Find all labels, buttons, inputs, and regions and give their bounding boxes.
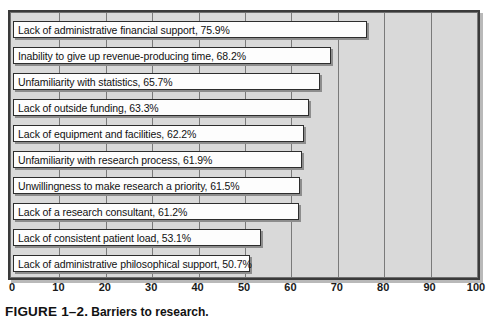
- bar-label: Unfamiliarity with statistics, 65.7%: [18, 76, 173, 87]
- bar-row: Lack of administrative philosophical sup…: [13, 255, 250, 272]
- x-tick-label-10: 10: [52, 282, 64, 293]
- bar: Lack of outside funding, 63.3%: [13, 99, 309, 116]
- bar-label: Unwillingness to make research a priorit…: [18, 180, 239, 191]
- bar-row: Lack of administrative financial support…: [13, 21, 367, 38]
- x-tick-label-90: 90: [423, 282, 435, 293]
- plot-area: Lack of administrative financial support…: [10, 12, 478, 278]
- x-tick-label-80: 80: [377, 282, 389, 293]
- bar-row: Unfamiliarity with statistics, 65.7%: [13, 73, 320, 90]
- x-tick-label-20: 20: [99, 282, 111, 293]
- x-tick-label-40: 40: [191, 282, 203, 293]
- chart-plot-frame: Lack of administrative financial support…: [8, 10, 480, 280]
- bar: Lack of a research consultant, 61.2%: [13, 203, 299, 220]
- bar-row: Unwillingness to make research a priorit…: [13, 177, 300, 194]
- x-tick-label-70: 70: [331, 282, 343, 293]
- bar-row: Lack of a research consultant, 61.2%: [13, 203, 299, 220]
- bar: Lack of consistent patient load, 53.1%: [13, 229, 261, 246]
- x-tick-label-60: 60: [284, 282, 296, 293]
- bar-label: Lack of a research consultant, 61.2%: [18, 206, 187, 217]
- gridline-100: [477, 13, 478, 277]
- bar: Lack of administrative philosophical sup…: [13, 255, 250, 272]
- x-tick-label-30: 30: [145, 282, 157, 293]
- x-tick-label-100: 100: [467, 282, 485, 293]
- bar-row: Unfamiliarity with research process, 61.…: [13, 151, 302, 168]
- bar-label: Unfamiliarity with research process, 61.…: [18, 154, 212, 165]
- bar-row: Lack of consistent patient load, 53.1%: [13, 229, 261, 246]
- x-axis: 0102030405060708090100: [8, 282, 480, 302]
- bar-label: Inability to give up revenue-producing t…: [18, 50, 246, 61]
- bar: Unwillingness to make research a priorit…: [13, 177, 300, 194]
- bar-label: Lack of equipment and facilities, 62.2%: [18, 128, 196, 139]
- bar-label: Lack of outside funding, 63.3%: [18, 102, 159, 113]
- bar: Lack of administrative financial support…: [13, 21, 367, 38]
- bar-label: Lack of administrative philosophical sup…: [18, 258, 252, 269]
- bar-row: Lack of equipment and facilities, 62.2%: [13, 125, 304, 142]
- figure-caption: FIGURE 1–2.Barriers to research.: [5, 305, 209, 319]
- x-tick-label-50: 50: [238, 282, 250, 293]
- bars-group: Lack of administrative financial support…: [11, 13, 477, 277]
- figure-container: Lack of administrative financial support…: [0, 0, 499, 325]
- x-tick-label-0: 0: [9, 282, 15, 293]
- bar-label: Lack of administrative financial support…: [18, 24, 230, 35]
- bar-label: Lack of consistent patient load, 53.1%: [18, 232, 191, 243]
- caption-text: Barriers to research.: [91, 305, 208, 319]
- bar: Inability to give up revenue-producing t…: [13, 47, 331, 64]
- bar: Unfamiliarity with research process, 61.…: [13, 151, 302, 168]
- figure-number: FIGURE 1–2.: [5, 304, 88, 319]
- bar-row: Lack of outside funding, 63.3%: [13, 99, 309, 116]
- bar: Lack of equipment and facilities, 62.2%: [13, 125, 304, 142]
- bar: Unfamiliarity with statistics, 65.7%: [13, 73, 320, 90]
- bar-row: Inability to give up revenue-producing t…: [13, 47, 331, 64]
